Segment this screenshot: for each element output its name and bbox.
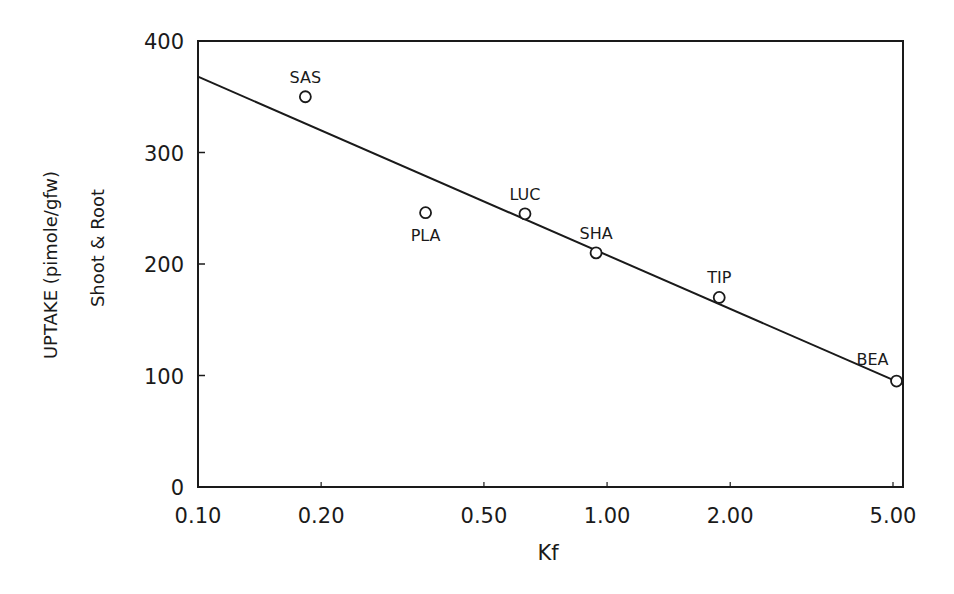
- data-point-marker: [591, 247, 602, 258]
- x-tick-label: 0.50: [461, 504, 508, 528]
- data-points: SASPLALUCSHATIPBEA: [290, 68, 902, 387]
- data-point-label: SHA: [580, 224, 613, 243]
- plot-frame: [198, 41, 903, 487]
- x-tick-label: 0.10: [175, 504, 222, 528]
- data-point-label: TIP: [706, 268, 731, 287]
- x-tick-label: 5.00: [870, 504, 917, 528]
- data-point-label: BEA: [856, 350, 888, 369]
- x-axis-title: Kf: [537, 541, 559, 565]
- data-point-marker: [891, 376, 902, 387]
- y-axis-title: UPTAKE (pimole/gfw): [40, 171, 61, 359]
- scatter-chart: 0100200300400 0.100.200.501.002.005.00 S…: [0, 0, 954, 594]
- x-tick-label: 1.00: [584, 504, 631, 528]
- y-tick-label: 300: [144, 142, 184, 166]
- x-tick-label: 0.20: [298, 504, 345, 528]
- data-point-label: SAS: [290, 68, 322, 87]
- y-tick-label: 100: [144, 365, 184, 389]
- plot-border: [198, 41, 903, 487]
- data-point-marker: [714, 292, 725, 303]
- y-tick-label: 400: [144, 30, 184, 54]
- y-tick-label: 0: [171, 476, 184, 500]
- x-tick-label: 2.00: [707, 504, 754, 528]
- fit-line: [198, 77, 903, 385]
- data-point-label: LUC: [509, 185, 540, 204]
- y-axis-subtitle: Shoot & Root: [87, 189, 108, 307]
- regression-line: [198, 77, 903, 385]
- data-point-marker: [420, 207, 431, 218]
- data-point-label: PLA: [411, 226, 441, 245]
- data-point-marker: [519, 208, 530, 219]
- y-axis-ticks: 0100200300400: [144, 30, 205, 500]
- x-axis-ticks: 0.100.200.501.002.005.00: [175, 482, 917, 528]
- y-tick-label: 200: [144, 253, 184, 277]
- data-point-marker: [300, 91, 311, 102]
